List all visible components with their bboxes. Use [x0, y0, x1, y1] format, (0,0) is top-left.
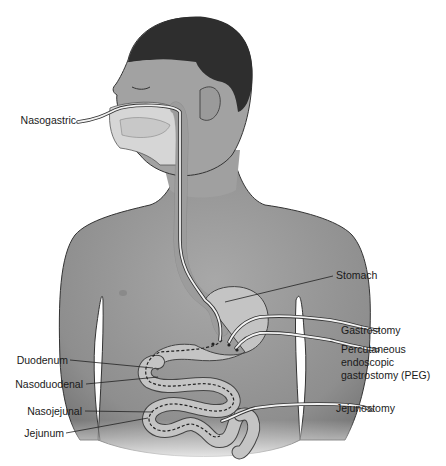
- label-nasogastric: Nasogastric: [20, 114, 76, 126]
- label-gastrostomy: Gastrostomy: [341, 324, 401, 336]
- anatomy-illustration: [0, 0, 446, 466]
- label-peg-line1: Percutaneous: [341, 343, 406, 355]
- label-jejunostomy: Jejunostomy: [336, 402, 395, 414]
- feeding-tube-diagram: Nasogastric Stomach Gastrostomy Percutan…: [0, 0, 446, 466]
- label-duodenum: Duodenum: [0, 354, 68, 366]
- label-nasoduodenal: Nasoduodenal: [0, 378, 83, 390]
- label-peg-line3: gastrostomy (PEG): [341, 369, 430, 381]
- label-peg-line2: endoscopic: [341, 356, 394, 368]
- label-stomach: Stomach: [336, 269, 377, 281]
- label-jejunum: Jejunum: [0, 427, 64, 439]
- label-nasojejunal: Nasojejunal: [0, 405, 82, 417]
